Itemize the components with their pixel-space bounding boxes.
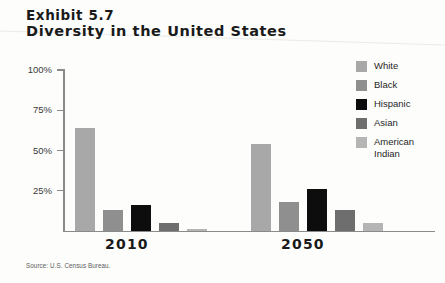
y-axis-tick xyxy=(57,69,64,70)
y-axis-tick xyxy=(57,150,64,151)
legend-swatch xyxy=(356,61,367,72)
legend-label: Black xyxy=(374,79,397,91)
bar xyxy=(131,205,151,231)
legend-swatch xyxy=(356,99,367,110)
x-axis-group-label: 2010 xyxy=(105,236,149,252)
legend-item: Asian xyxy=(356,117,442,129)
legend-item: White xyxy=(356,60,442,72)
legend-swatch xyxy=(356,80,367,91)
legend-swatch xyxy=(356,137,367,148)
y-axis-label: 75% xyxy=(0,104,52,115)
legend-label: Hispanic xyxy=(374,98,410,110)
chart-legend: WhiteBlackHispanicAsianAmerican Indian xyxy=(356,60,442,166)
legend-label: Asian xyxy=(374,117,398,129)
bar xyxy=(159,223,179,231)
legend-label: White xyxy=(374,60,398,72)
legend-item: Black xyxy=(356,79,442,91)
bar xyxy=(307,189,327,231)
source-note: Source: U.S. Census Bureau. xyxy=(26,262,111,269)
bar xyxy=(279,202,299,231)
x-axis-group-label: 2050 xyxy=(281,236,325,252)
bar xyxy=(335,210,355,231)
bar xyxy=(187,229,207,231)
y-axis-label: 50% xyxy=(0,145,52,156)
bar xyxy=(363,223,383,231)
bar xyxy=(103,210,123,231)
y-axis-label: 25% xyxy=(0,185,52,196)
legend-label: American Indian xyxy=(374,136,442,159)
bar-group xyxy=(75,70,207,231)
y-axis-label: 100% xyxy=(0,64,52,75)
legend-item: American Indian xyxy=(356,136,442,159)
y-axis-tick xyxy=(57,190,64,191)
bar xyxy=(75,128,95,231)
page-background: Exhibit 5.7 Diversity in the United Stat… xyxy=(0,0,445,283)
legend-swatch xyxy=(356,118,367,129)
legend-item: Hispanic xyxy=(356,98,442,110)
bar xyxy=(251,144,271,231)
y-axis-tick xyxy=(57,110,64,111)
